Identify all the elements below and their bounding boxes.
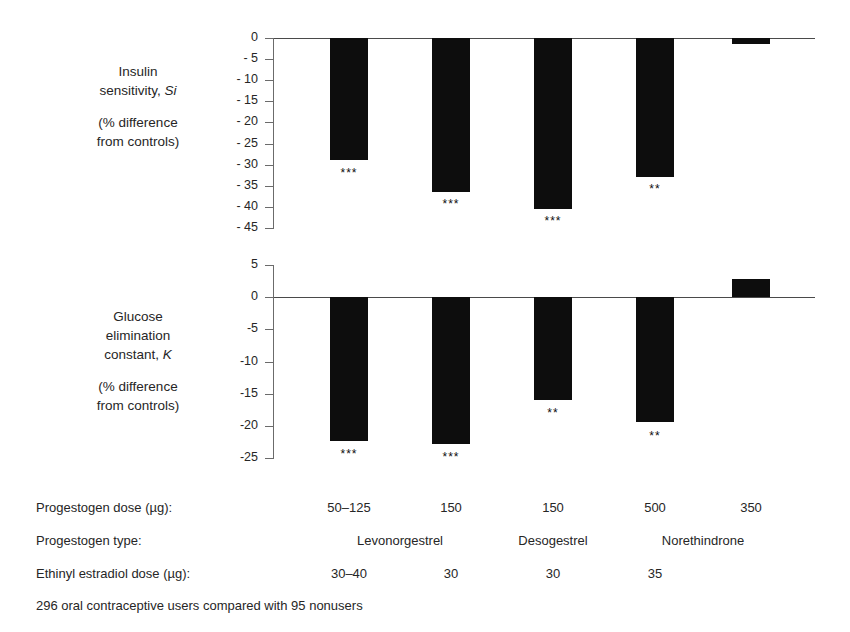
estradiol-dose-value-3: 30	[546, 566, 560, 581]
bottom-tick-label-p5: 5	[198, 257, 258, 271]
bottom-bar-1	[330, 297, 368, 441]
figure-caption: 296 oral contraceptive users compared wi…	[36, 598, 363, 613]
bottom-tick-p5	[265, 265, 274, 266]
progestogen-dose-value-3: 150	[542, 500, 564, 515]
estradiol-dose-value-2: 30	[444, 566, 458, 581]
progestogen-type-value-1: Levonorgestrel	[357, 533, 443, 548]
bottom-tick-label-5: -5	[198, 321, 258, 335]
bottom-tick-20	[265, 426, 274, 427]
estradiol-dose-value-1: 30–40	[331, 566, 367, 581]
bottom-bar-2-significance: ***	[432, 450, 470, 464]
progestogen-type-value-3: Norethindrone	[662, 533, 744, 548]
bottom-tick-label-0: 0	[198, 289, 258, 303]
estradiol-dose-row-label: Ethinyl estradiol dose (µg):	[36, 566, 190, 581]
bottom-tick-10	[265, 362, 274, 363]
progestogen-dose-value-1: 50–125	[327, 500, 370, 515]
bottom-tick-0	[265, 297, 274, 298]
bottom-tick-label-25: -25	[198, 450, 258, 464]
bottom-tick-label-20: -20	[198, 418, 258, 432]
progestogen-type-row-label: Progestogen type:	[36, 533, 142, 548]
bottom-tick-25	[265, 458, 274, 459]
bottom-bar-1-significance: ***	[330, 447, 368, 461]
bottom-bar-4-significance: **	[636, 429, 674, 443]
progestogen-dose-value-5: 350	[740, 500, 762, 515]
bottom-bar-2	[432, 297, 470, 444]
progestogen-type-value-2: Desogestrel	[518, 533, 587, 548]
bottom-tick-5	[265, 329, 274, 330]
bottom-bar-3-significance: **	[534, 406, 572, 420]
progestogen-dose-value-2: 150	[440, 500, 462, 515]
bottom-tick-15	[265, 394, 274, 395]
bottom-bar-4	[636, 297, 674, 422]
estradiol-dose-value-4: 35	[648, 566, 662, 581]
figure-container: Insulin sensitivity, Si (% difference fr…	[0, 0, 850, 632]
bottom-bar-3	[534, 297, 572, 400]
progestogen-dose-row-label: Progestogen dose (µg):	[36, 500, 172, 515]
bottom-tick-label-10: -10	[198, 354, 258, 368]
bottom-tick-label-15: -15	[198, 386, 258, 400]
progestogen-dose-value-4: 500	[644, 500, 666, 515]
bottom-bar-5	[732, 279, 770, 297]
